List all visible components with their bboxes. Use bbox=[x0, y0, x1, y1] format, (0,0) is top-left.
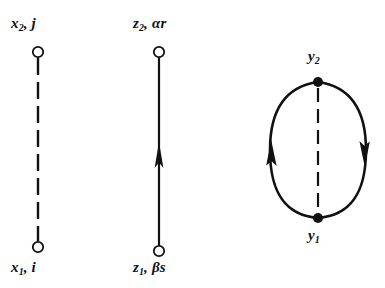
node-marker-y2 bbox=[313, 77, 323, 87]
node-marker-y1 bbox=[313, 213, 323, 223]
node-label-x1-suffix: , i bbox=[24, 259, 36, 275]
node-label-z1-suffix: , βs bbox=[144, 259, 166, 275]
diagram-arrow-z bbox=[154, 47, 164, 256]
node-label-z2-suffix: , αr bbox=[144, 15, 166, 31]
node-label-y1-subscript: 1 bbox=[315, 234, 320, 245]
node-marker-x1 bbox=[33, 242, 43, 252]
node-marker-z2 bbox=[154, 47, 164, 57]
node-label-x2-suffix: , j bbox=[24, 15, 36, 31]
node-marker-z1 bbox=[154, 246, 164, 256]
node-label-x2: x2, j bbox=[11, 16, 36, 31]
node-label-z1-subscript: 1 bbox=[139, 266, 144, 277]
node-label-y2-base: y bbox=[308, 48, 315, 64]
loop-arc-left-y bbox=[270, 82, 318, 218]
diagram-dashed-x bbox=[33, 47, 43, 252]
node-label-y1: y1 bbox=[308, 228, 320, 243]
node-label-y2: y2 bbox=[308, 49, 320, 64]
node-label-x2-base: x bbox=[11, 15, 19, 31]
diagram-canvas bbox=[0, 0, 385, 288]
feynman-diagram-figure: x2, j x1, i z2, αr z1, βs y2 y1 bbox=[0, 0, 385, 288]
node-label-z1: z1, βs bbox=[133, 260, 166, 275]
node-label-x1-subscript: 1 bbox=[19, 266, 24, 277]
node-marker-x2 bbox=[33, 47, 43, 57]
diagram-loop-y bbox=[266, 77, 370, 223]
arrowhead-right-arc-y bbox=[359, 141, 369, 167]
node-label-x1-base: x bbox=[11, 259, 19, 275]
node-label-x1: x1, i bbox=[11, 260, 36, 275]
node-label-y1-base: y bbox=[308, 227, 315, 243]
node-label-y2-subscript: 2 bbox=[315, 55, 320, 66]
loop-arc-right-y bbox=[318, 82, 366, 218]
node-label-z2-subscript: 2 bbox=[139, 22, 144, 33]
node-label-z2: z2, αr bbox=[133, 16, 166, 31]
node-label-x2-subscript: 2 bbox=[19, 22, 24, 33]
